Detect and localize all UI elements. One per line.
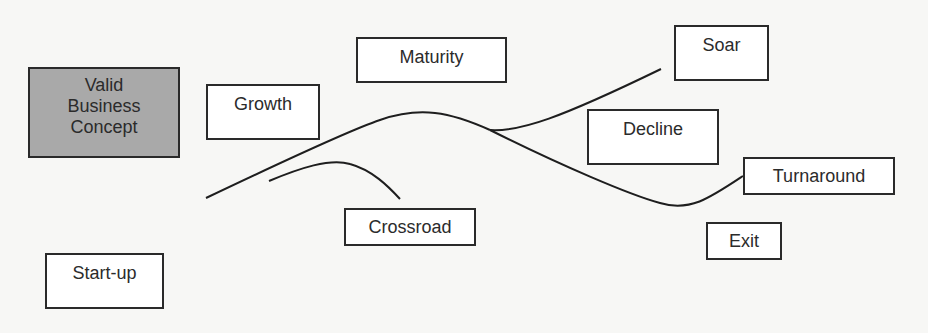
lifecycle-diagram: Valid Business Concept Growth Maturity S… — [0, 0, 928, 333]
node-exit: Exit — [706, 222, 782, 260]
node-turnaround: Turnaround — [743, 157, 895, 195]
node-soar: Soar — [674, 25, 769, 81]
node-valid-business-concept: Valid Business Concept — [28, 67, 180, 158]
node-crossroad: Crossroad — [344, 208, 476, 246]
node-label: Decline — [589, 119, 717, 140]
node-label-line: Concept — [30, 117, 178, 138]
node-maturity: Maturity — [356, 37, 507, 83]
node-label: Soar — [676, 35, 767, 56]
node-label-line: Valid — [30, 75, 178, 96]
node-label: Turnaround — [745, 166, 893, 187]
node-label: Maturity — [358, 47, 505, 68]
node-label: Crossroad — [346, 217, 474, 238]
crossroad-curve — [269, 162, 400, 199]
node-label-line: Business — [30, 96, 178, 117]
node-decline: Decline — [587, 109, 719, 165]
node-label: Growth — [208, 94, 318, 115]
node-growth: Growth — [206, 84, 320, 140]
node-label: Exit — [708, 231, 780, 252]
node-label: Start-up — [47, 263, 162, 284]
node-start-up: Start-up — [45, 253, 164, 309]
